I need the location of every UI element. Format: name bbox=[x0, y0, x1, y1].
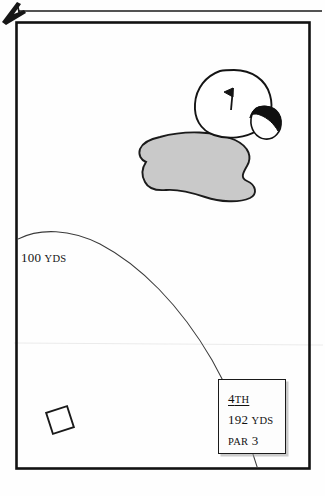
hole-number-line: 4TH bbox=[228, 389, 285, 410]
greenside-bunker bbox=[250, 106, 281, 139]
hole-info-box: 4TH 192 YDS PAR 3 bbox=[218, 379, 286, 454]
scan-artifact-line bbox=[14, 343, 323, 345]
hole-diagram-page: 100 YDS 4TH 192 YDS PAR 3 bbox=[0, 0, 325, 496]
hole-distance-value: 192 bbox=[228, 412, 248, 427]
arc-distance-label: 100 YDS bbox=[21, 250, 66, 266]
hole-distance-line: 192 YDS bbox=[228, 410, 285, 431]
fairway-bunker bbox=[139, 132, 255, 201]
hole-number-value: 4 bbox=[228, 391, 235, 406]
tee-box-marker bbox=[46, 406, 74, 434]
hole-number-suffix: TH bbox=[235, 394, 250, 405]
arc-distance-unit: YDS bbox=[45, 253, 67, 264]
hole-par-label: PAR bbox=[228, 436, 248, 447]
hole-par-line: PAR 3 bbox=[228, 431, 285, 452]
hole-distance-unit: YDS bbox=[252, 415, 274, 426]
hole-par-value: 3 bbox=[252, 433, 259, 448]
arc-distance-value: 100 bbox=[21, 250, 41, 265]
